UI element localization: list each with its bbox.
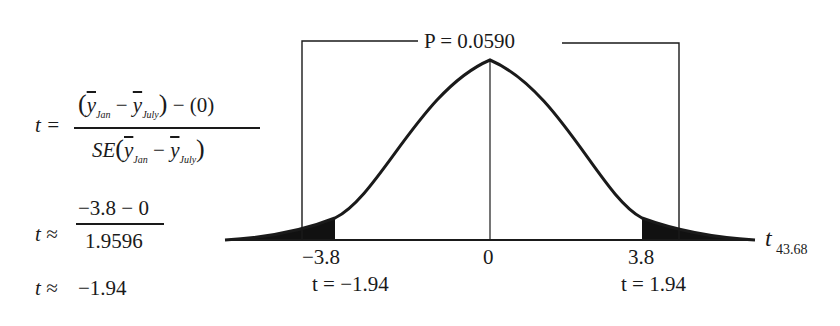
left-tick-label: −3.8: [302, 245, 340, 270]
axis-label: t: [765, 225, 772, 252]
right-t-label: t = 1.94: [621, 272, 686, 297]
axis-subscript: 43.68: [776, 242, 808, 258]
right-tick-label: 3.8: [628, 245, 654, 270]
center-tick-label: 0: [483, 245, 494, 270]
p-value-bracket: [302, 41, 418, 240]
left-t-label: t = −1.94: [312, 272, 389, 297]
p-value-label: P = 0.0590: [424, 29, 515, 54]
left-tail-shade: [225, 218, 335, 240]
t-distribution-plot: [0, 0, 840, 326]
right-tail-shade: [642, 218, 755, 240]
p-value-bracket-right: [562, 43, 679, 240]
